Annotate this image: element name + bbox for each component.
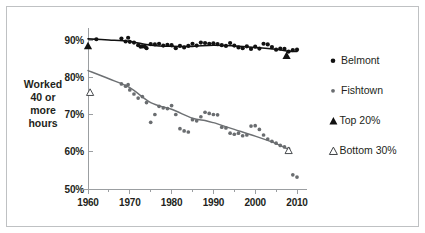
trend-lines: [88, 39, 297, 150]
data-point: [258, 128, 262, 132]
data-point: [178, 44, 182, 48]
data-point: [128, 40, 132, 44]
y-tick-label: 60%: [65, 146, 85, 157]
data-point: [199, 41, 203, 45]
data-point: [232, 43, 236, 47]
data-point: [191, 118, 195, 122]
legend-filled-circle-icon: [331, 59, 336, 64]
data-point: [195, 119, 199, 123]
data-point: [157, 104, 161, 108]
data-point: [220, 125, 224, 129]
data-point: [220, 43, 224, 47]
x-tick-label: 1960: [77, 197, 99, 208]
data-point: [232, 132, 236, 136]
data-point: [144, 46, 148, 50]
data-point: [186, 44, 190, 48]
trend-line: [88, 71, 289, 150]
data-point: [228, 41, 232, 45]
data-point: [203, 110, 207, 114]
data-point: [295, 48, 299, 52]
data-point: [170, 104, 174, 108]
data-point: [266, 42, 270, 46]
data-point: [274, 48, 278, 52]
data-point: [161, 43, 165, 47]
data-point: [261, 42, 265, 46]
data-point: [274, 141, 278, 145]
x-tick-label: 2000: [244, 197, 266, 208]
data-point: [216, 113, 220, 117]
data-point: [207, 42, 211, 46]
data-point: [182, 45, 186, 49]
legend-item-label: Top 20%: [340, 114, 381, 126]
data-point: [136, 96, 140, 100]
data-point: [149, 42, 153, 46]
data-point: [249, 124, 253, 128]
data-point: [282, 47, 286, 51]
data-point: [190, 42, 194, 46]
data-point: [161, 106, 165, 110]
legend-item-label: Bottom 30%: [340, 144, 397, 156]
data-point: [132, 41, 136, 45]
data-point: [157, 42, 161, 46]
data-point: [94, 37, 98, 41]
y-tick-label: 90%: [65, 35, 85, 46]
top20-marker: [84, 42, 92, 50]
data-point: [119, 36, 123, 40]
legend-item-label: Belmont: [341, 54, 380, 66]
y-axis-title-line: more: [30, 104, 56, 116]
data-point: [266, 137, 270, 141]
y-tick-label: 70%: [65, 109, 85, 120]
data-point: [278, 144, 282, 148]
figure-container: Worked40 ormorehours 90%80%70%60%50% 196…: [0, 0, 425, 233]
data-point: [249, 47, 253, 51]
highlight-markers: [84, 42, 292, 154]
data-point: [174, 46, 178, 50]
data-point: [237, 131, 241, 135]
data-point: [199, 115, 203, 119]
legend-filled-triangle-icon: [329, 117, 337, 124]
x-tick-label: 1970: [119, 197, 141, 208]
data-point: [165, 43, 169, 47]
y-axis-title-line: 40 or: [30, 91, 55, 103]
data-point: [257, 46, 261, 50]
x-tick-label: 2010: [286, 197, 308, 208]
data-point: [215, 42, 219, 46]
data-point: [153, 42, 157, 46]
data-point: [120, 82, 124, 86]
data-point: [186, 130, 190, 134]
legend-item-label: Fishtown: [341, 84, 383, 96]
legend-open-triangle-icon: [329, 147, 337, 154]
y-tick-label: 80%: [65, 72, 85, 83]
data-point: [178, 127, 182, 131]
data-point: [128, 88, 132, 92]
data-point: [145, 101, 149, 105]
data-point: [149, 120, 153, 124]
data-point: [195, 43, 199, 47]
data-point: [291, 173, 295, 177]
y-axis-tick-labels: 90%80%70%60%50%: [65, 35, 93, 195]
data-point: [140, 95, 144, 99]
data-point: [270, 45, 274, 49]
data-point: [132, 92, 136, 96]
y-axis-title: Worked40 ormorehours: [24, 78, 62, 129]
y-axis-title-line: hours: [28, 117, 57, 129]
data-point: [253, 124, 257, 128]
data-point: [212, 113, 216, 117]
data-point: [182, 129, 186, 133]
data-point: [291, 48, 295, 52]
data-point: [253, 45, 257, 49]
data-point: [126, 83, 130, 87]
legend-filled-circle-icon: [331, 89, 335, 93]
data-points: [94, 36, 299, 179]
y-axis-title-line: Worked: [24, 78, 62, 90]
data-point: [126, 36, 130, 40]
data-point: [245, 44, 249, 48]
y-tick-label: 50%: [65, 184, 85, 195]
data-point: [124, 39, 128, 43]
data-point: [236, 45, 240, 49]
data-point: [241, 134, 245, 138]
data-point: [224, 126, 228, 130]
data-point: [153, 113, 157, 117]
x-tick-label: 1980: [161, 197, 183, 208]
x-tick-label: 1990: [203, 197, 225, 208]
